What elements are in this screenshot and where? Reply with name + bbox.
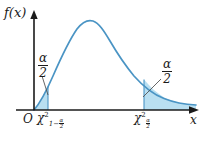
x-tick-label-upper-critical: χ2α2 bbox=[134, 112, 150, 129]
right-tick-sub-fraction: α2 bbox=[146, 118, 151, 130]
origin-label: O bbox=[23, 113, 33, 125]
y-axis-arrowhead bbox=[30, 10, 37, 19]
right-tail-area-label: α 2 bbox=[162, 58, 172, 85]
right-tail-numerator: α bbox=[162, 58, 172, 71]
left-tail-area-label: α 2 bbox=[38, 52, 48, 79]
chi-square-distribution-figure: f(x) O x α 2 α 2 χ21−α2 χ2α2 bbox=[0, 0, 206, 141]
left-tick-sub-prefix: 1− bbox=[49, 119, 59, 127]
left-tick-sub-denominator: 2 bbox=[59, 124, 64, 130]
left-tick-subscript: 1−α2 bbox=[49, 118, 64, 130]
left-tail-denominator: 2 bbox=[38, 66, 48, 79]
right-tick-sub-denominator: 2 bbox=[146, 124, 151, 130]
left-tail-numerator: α bbox=[38, 52, 48, 65]
y-axis-label: f(x) bbox=[4, 6, 26, 19]
x-tick-label-lower-critical: χ21−α2 bbox=[37, 112, 64, 129]
x-axis-label: x bbox=[190, 114, 197, 126]
right-tick-subscript: α2 bbox=[146, 118, 151, 130]
left-tick-sub-fraction: α2 bbox=[59, 118, 64, 130]
right-tail-denominator: 2 bbox=[162, 72, 172, 85]
